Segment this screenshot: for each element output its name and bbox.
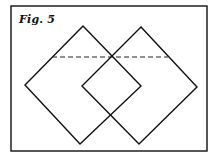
figure-5: Fig. 5 bbox=[0, 0, 223, 159]
figure-caption: Fig. 5 bbox=[19, 13, 55, 26]
figure-frame bbox=[11, 6, 207, 151]
